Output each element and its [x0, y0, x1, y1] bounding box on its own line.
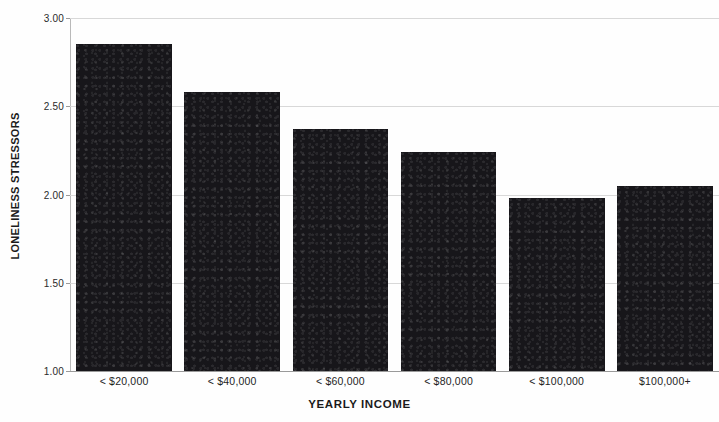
x-axis-tick-labels: < $20,000< $40,000< $60,000< $80,000< $1… — [70, 375, 719, 395]
x-axis-category-label: $100,000+ — [611, 375, 719, 387]
bar-slot — [76, 18, 172, 371]
y-axis-title-text: LONELINESS STRESSORS — [9, 112, 21, 259]
y-axis-tick-label: 1.50 — [24, 277, 64, 288]
bar-series — [70, 18, 719, 371]
x-axis-category-label: < $80,000 — [395, 375, 503, 387]
bar[interactable] — [509, 198, 605, 371]
x-axis-line — [70, 371, 719, 372]
x-axis-category-label: < $20,000 — [70, 375, 178, 387]
x-axis-title: YEARLY INCOME — [0, 398, 719, 410]
bar[interactable] — [401, 152, 497, 371]
y-axis-tick-labels: 1.001.502.002.503.00 — [22, 18, 64, 372]
bar[interactable] — [184, 92, 280, 371]
x-axis-category-label: < $40,000 — [178, 375, 286, 387]
x-axis-category-label: < $60,000 — [286, 375, 394, 387]
bar-slot — [509, 18, 605, 371]
bar[interactable] — [617, 186, 713, 371]
bar-slot — [293, 18, 389, 371]
bar-slot — [401, 18, 497, 371]
y-axis-tick-label: 3.00 — [24, 13, 64, 24]
y-axis-tick-label: 2.00 — [24, 189, 64, 200]
plot-area — [70, 18, 719, 372]
bar-chart-figure: LONELINESS STRESSORS 1.001.502.002.503.0… — [0, 0, 719, 422]
x-axis-category-label: < $100,000 — [503, 375, 611, 387]
bar-slot — [617, 18, 713, 371]
bar-slot — [184, 18, 280, 371]
bar[interactable] — [76, 44, 172, 371]
y-axis-tick-label: 1.00 — [24, 366, 64, 377]
y-axis-tick-label: 2.50 — [24, 101, 64, 112]
bar[interactable] — [293, 129, 389, 371]
